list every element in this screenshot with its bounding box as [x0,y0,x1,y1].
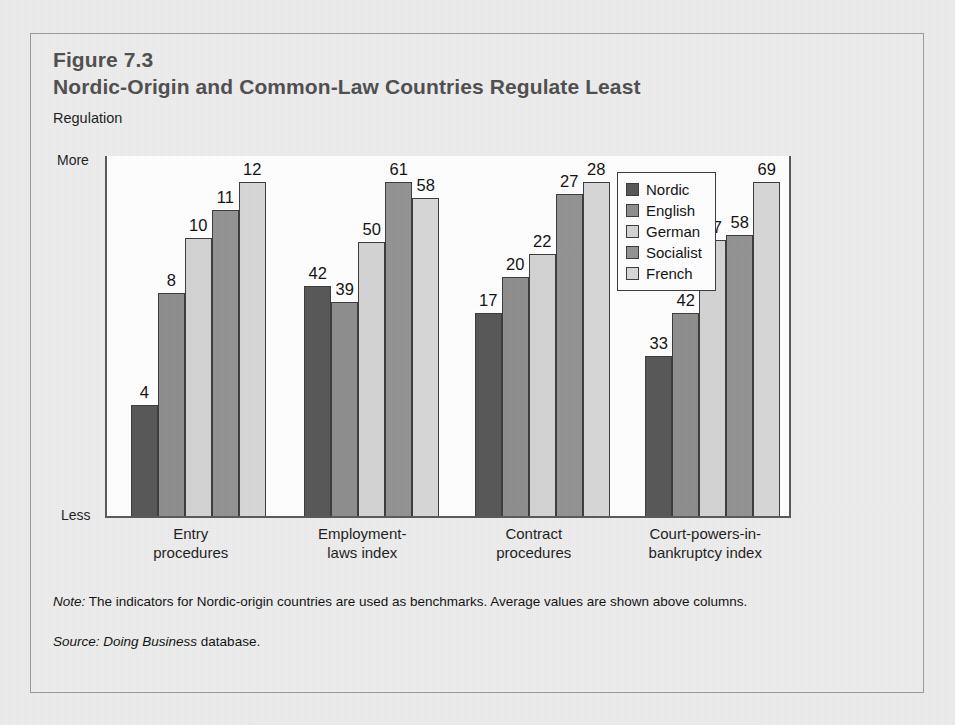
bar-english[interactable]: 39 [331,302,358,516]
bar-english[interactable]: 20 [502,277,529,516]
x-category-label: Entryprocedures [105,524,277,562]
bar-group-columns: 48101112 [119,156,266,516]
legend-item-socialist[interactable]: Socialist [626,242,702,263]
bar-group: 1720222728 [448,156,619,516]
figure-source: Source: Doing Business database. [53,634,260,649]
bar-value-label: 61 [390,160,408,179]
x-category-label: Contractprocedures [448,524,620,562]
bar-value-label: 20 [506,255,524,274]
legend-item-english[interactable]: English [626,200,702,221]
figure-note: Note: The indicators for Nordic-origin c… [53,594,747,609]
plot-right-border [789,156,791,518]
x-category-label-line1: Employment- [277,524,449,543]
bar-nordic[interactable]: 17 [475,313,502,516]
x-category-label: Employment-laws index [277,524,449,562]
bar-value-label: 42 [677,291,695,310]
bar-value-label: 58 [731,213,749,232]
chart-legend: NordicEnglishGermanSocialistFrench [617,172,716,291]
legend-swatch-icon [626,225,639,238]
legend-item-nordic[interactable]: Nordic [626,179,702,200]
x-category-label: Court-powers-in-bankruptcy index [620,524,792,562]
bar-value-label: 10 [189,216,207,235]
bar-value-label: 4 [140,383,149,402]
x-category-label-line2: procedures [105,543,277,562]
legend-item-label: English [646,202,695,219]
bar-value-label: 27 [560,172,578,191]
legend-item-label: German [646,223,700,240]
bar-english[interactable]: 42 [672,313,699,516]
bar-socialist[interactable]: 27 [556,194,583,516]
bar-value-label: 11 [217,188,234,207]
figure-page: Figure 7.3 Nordic-Origin and Common-Law … [0,0,955,725]
bar-value-label: 8 [167,271,176,290]
bar-value-label: 28 [587,160,605,179]
legend-item-german[interactable]: German [626,221,702,242]
source-label: Source: [53,634,100,649]
bar-value-label: 69 [758,160,776,179]
bar-german[interactable]: 50 [358,242,385,516]
bar-french[interactable]: 58 [412,198,439,516]
y-axis-tick-more: More [57,152,89,168]
x-axis-category-labels: EntryproceduresEmployment-laws indexCont… [105,524,791,562]
x-category-label-line2: bankruptcy index [620,543,792,562]
bar-value-label: 33 [650,334,668,353]
bar-value-label: 42 [309,264,327,283]
bar-group-columns: 1720222728 [457,156,610,516]
figure-number: Figure 7.3 [53,48,153,72]
bar-value-label: 12 [243,160,261,179]
source-publication: Doing Business [100,634,198,649]
bar-nordic[interactable]: 42 [304,286,331,516]
bar-value-label: 17 [479,291,497,310]
bar-group: 48101112 [107,156,278,516]
figure-frame: Figure 7.3 Nordic-Origin and Common-Law … [30,33,924,693]
legend-item-label: French [646,265,693,282]
x-category-label-line2: procedures [448,543,620,562]
x-category-label-line1: Contract [448,524,620,543]
legend-item-label: Nordic [646,181,689,198]
legend-item-french[interactable]: French [626,263,702,284]
bar-value-label: 50 [363,220,381,239]
y-axis-tick-less: Less [61,507,91,523]
y-axis-title: Regulation [53,110,122,126]
legend-swatch-icon [626,246,639,259]
source-body: database. [197,634,260,649]
bar-french[interactable]: 28 [583,182,610,516]
legend-swatch-icon [626,204,639,217]
bar-value-label: 58 [417,176,435,195]
note-body: The indicators for Nordic-origin countri… [85,594,747,609]
x-category-label-line1: Entry [105,524,277,543]
bar-french[interactable]: 69 [753,182,780,516]
figure-title: Nordic-Origin and Common-Law Countries R… [53,75,641,99]
bar-german[interactable]: 10 [185,238,212,516]
x-axis-line [105,516,791,518]
bar-value-label: 39 [336,280,354,299]
bar-socialist[interactable]: 58 [726,235,753,516]
bar-english[interactable]: 8 [158,293,185,516]
bar-group-columns: 4239506158 [286,156,439,516]
bar-group: 4239506158 [278,156,449,516]
x-category-label-line1: Court-powers-in- [620,524,792,543]
note-label: Note: [53,594,85,609]
bar-socialist[interactable]: 61 [385,182,412,516]
legend-swatch-icon [626,183,639,196]
x-category-label-line2: laws index [277,543,449,562]
bar-nordic[interactable]: 4 [131,405,158,516]
legend-swatch-icon [626,267,639,280]
bar-french[interactable]: 12 [239,182,266,516]
legend-item-label: Socialist [646,244,702,261]
bar-nordic[interactable]: 33 [645,356,672,516]
bar-socialist[interactable]: 11 [212,210,239,516]
bar-value-label: 22 [533,232,551,251]
bar-german[interactable]: 22 [529,254,556,516]
